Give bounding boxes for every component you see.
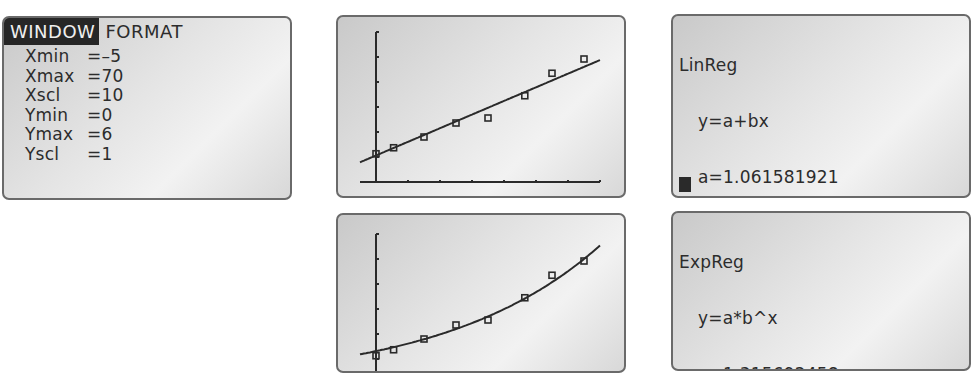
expreg-title: ExpReg bbox=[679, 253, 839, 272]
linear-regression-graph-screen bbox=[336, 15, 626, 198]
linreg-title: LinReg bbox=[679, 56, 839, 75]
expreg-equation: y=a*b^x bbox=[679, 309, 839, 328]
var-value[interactable]: =10 bbox=[87, 86, 123, 106]
tab-window[interactable]: WINDOW bbox=[4, 18, 99, 45]
row-yscl[interactable]: Yscl =1 bbox=[25, 145, 123, 165]
row-xmin[interactable]: Xmin =–5 bbox=[25, 47, 123, 67]
var-label: Xscl bbox=[25, 86, 87, 106]
linear-regression-plot bbox=[338, 17, 626, 198]
expreg-a-value: a=1.315692458 bbox=[679, 365, 839, 371]
var-value[interactable]: =0 bbox=[87, 106, 112, 126]
data-point-marker bbox=[453, 322, 459, 328]
block-cursor-icon bbox=[679, 177, 691, 192]
row-ymax[interactable]: Ymax =6 bbox=[25, 125, 123, 145]
var-value[interactable]: =70 bbox=[87, 67, 123, 87]
var-label: Ymin bbox=[25, 106, 87, 126]
window-variable-list: Xmin =–5 Xmax =70 Xscl =10 Ymin =0 Ymax … bbox=[25, 47, 123, 164]
expreg-output: ExpReg y=a*b^x a=1.315692458 b=1.0207511… bbox=[679, 216, 839, 371]
exponential-regression-graph-screen bbox=[336, 213, 626, 373]
var-label: Ymax bbox=[25, 125, 87, 145]
var-value[interactable]: =6 bbox=[87, 125, 112, 145]
var-value[interactable]: =1 bbox=[87, 145, 112, 165]
row-ymin[interactable]: Ymin =0 bbox=[25, 106, 123, 126]
data-point-marker bbox=[549, 70, 555, 76]
linreg-a-value: a=1.061581921 bbox=[679, 168, 839, 187]
window-menu-bar: WINDOW FORMAT bbox=[4, 18, 187, 45]
var-label: Xmax bbox=[25, 67, 87, 87]
tab-format[interactable]: FORMAT bbox=[99, 18, 186, 45]
regression-curve bbox=[360, 246, 600, 355]
data-point-marker bbox=[581, 56, 587, 62]
exponential-regression-plot bbox=[338, 215, 626, 373]
data-point-marker bbox=[485, 115, 491, 121]
row-xmax[interactable]: Xmax =70 bbox=[25, 67, 123, 87]
expreg-result-screen: ExpReg y=a*b^x a=1.315692458 b=1.0207511… bbox=[671, 211, 971, 371]
var-value[interactable]: =–5 bbox=[87, 47, 121, 67]
var-label: Xmin bbox=[25, 47, 87, 67]
var-label: Yscl bbox=[25, 145, 87, 165]
data-point-marker bbox=[549, 272, 555, 278]
linreg-equation: y=a+bx bbox=[679, 112, 839, 131]
window-settings-screen: WINDOW FORMAT Xmin =–5 Xmax =70 Xscl =10… bbox=[2, 16, 292, 200]
linreg-result-screen: LinReg y=a+bx a=1.061581921 b=.05451974 bbox=[671, 14, 971, 198]
linreg-output: LinReg y=a+bx a=1.061581921 b=.05451974 bbox=[679, 19, 839, 198]
row-xscl[interactable]: Xscl =10 bbox=[25, 86, 123, 106]
